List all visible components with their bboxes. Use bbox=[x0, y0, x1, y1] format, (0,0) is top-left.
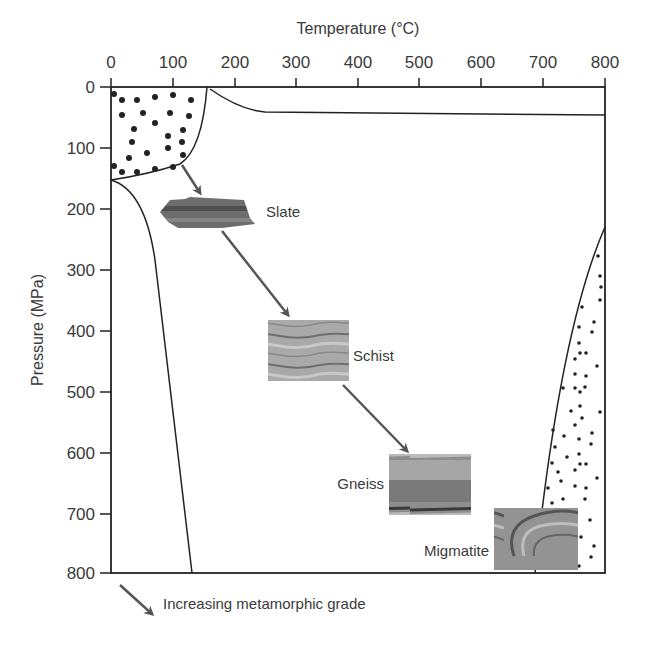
x-tick: 800 bbox=[591, 53, 619, 72]
y-tick-marks bbox=[100, 87, 111, 573]
gneiss-image bbox=[389, 454, 471, 515]
x-tick-marks bbox=[111, 78, 605, 87]
arrow-to-schist bbox=[222, 231, 288, 315]
x-tick: 500 bbox=[405, 53, 433, 72]
legend-label: Increasing metamorphic grade bbox=[163, 595, 366, 612]
y-tick: 700 bbox=[67, 505, 95, 524]
boundary-curve-upper bbox=[210, 89, 605, 115]
schist-sample: Schist bbox=[268, 320, 395, 381]
x-tick: 700 bbox=[529, 53, 557, 72]
y-tick: 300 bbox=[67, 261, 95, 280]
migmatite-image bbox=[494, 508, 578, 570]
x-tick: 0 bbox=[106, 53, 115, 72]
arrow-to-slate bbox=[182, 165, 200, 193]
x-tick: 600 bbox=[467, 53, 495, 72]
slate-label: Slate bbox=[266, 203, 300, 220]
legend: Increasing metamorphic grade bbox=[120, 585, 366, 614]
slate-sample: Slate bbox=[160, 197, 300, 228]
diagenesis-region bbox=[111, 87, 207, 180]
y-tick: 600 bbox=[67, 444, 95, 463]
y-axis-title: Pressure (MPa) bbox=[29, 274, 46, 386]
gneiss-label: Gneiss bbox=[337, 475, 384, 492]
y-tick: 0 bbox=[86, 78, 95, 97]
y-axis-ticks: 0 100 200 300 400 500 600 700 800 bbox=[67, 78, 95, 583]
y-tick: 100 bbox=[67, 139, 95, 158]
boundary-curve-left bbox=[111, 180, 192, 573]
y-tick: 800 bbox=[67, 564, 95, 583]
y-tick: 200 bbox=[67, 200, 95, 219]
legend-arrow-icon bbox=[120, 585, 152, 614]
x-tick: 400 bbox=[344, 53, 372, 72]
y-tick: 500 bbox=[67, 383, 95, 402]
migmatite-sample: Migmatite bbox=[424, 508, 578, 570]
migmatite-label: Migmatite bbox=[424, 542, 489, 559]
x-tick: 100 bbox=[159, 53, 187, 72]
x-axis-title: Temperature (°C) bbox=[297, 20, 420, 37]
metamorphic-grade-diagram: Temperature (°C) 0 100 200 300 400 500 6… bbox=[0, 0, 652, 648]
schist-image bbox=[268, 320, 349, 381]
arrow-to-gneiss bbox=[343, 385, 407, 451]
gneiss-sample: Gneiss bbox=[337, 454, 471, 515]
x-axis-ticks: 0 100 200 300 400 500 600 700 800 bbox=[106, 53, 619, 72]
x-tick: 300 bbox=[282, 53, 310, 72]
schist-label: Schist bbox=[353, 347, 395, 364]
x-tick: 200 bbox=[221, 53, 249, 72]
slate-image bbox=[160, 197, 255, 228]
y-tick: 400 bbox=[67, 322, 95, 341]
